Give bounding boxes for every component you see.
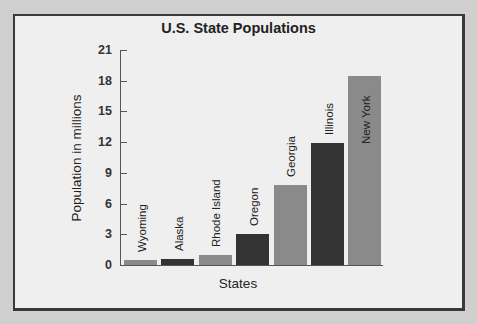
bar-label: Wyoming — [136, 204, 148, 252]
y-tick-label: 0 — [105, 258, 112, 272]
y-tick-label: 12 — [98, 135, 112, 149]
bar-label: Georgia — [285, 136, 297, 177]
y-tick — [121, 81, 127, 82]
y-tick — [121, 173, 127, 174]
bar-label: New York — [360, 95, 372, 144]
bar-illinois — [311, 143, 344, 265]
bar-label: Oregon — [248, 188, 260, 226]
y-tick-label: 6 — [105, 197, 112, 211]
bar-rhode-island — [199, 255, 232, 265]
y-tick-label: 9 — [105, 166, 112, 180]
x-axis-label: States — [219, 276, 257, 291]
bar-alaska — [161, 259, 194, 265]
y-tick-label: 18 — [98, 74, 112, 88]
y-axis-label: Population in millions — [69, 95, 84, 222]
y-tick — [121, 142, 127, 143]
y-tick — [121, 50, 127, 51]
bar-oregon — [236, 234, 269, 265]
bar-label: Rhode Island — [210, 179, 222, 247]
y-tick — [121, 204, 127, 205]
y-tick — [121, 111, 127, 112]
chart-title: U.S. State Populations — [0, 20, 477, 36]
bar-wyoming — [124, 260, 157, 265]
bar-georgia — [274, 185, 307, 265]
y-tick-label: 15 — [98, 104, 112, 118]
bar-label: Alaska — [173, 216, 185, 251]
y-tick-label: 3 — [105, 227, 112, 241]
y-tick-label: 21 — [98, 43, 112, 57]
y-tick — [121, 234, 127, 235]
bar-label: Illinois — [323, 103, 335, 135]
x-axis — [120, 265, 383, 266]
